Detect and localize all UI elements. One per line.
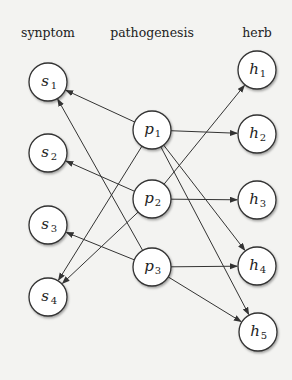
node-s1: s1 (29, 63, 67, 101)
node-subscript: 5 (261, 330, 267, 341)
node-label: p (144, 120, 154, 138)
node-subscript: 1 (155, 128, 161, 139)
edge-p2-to-h1 (164, 86, 244, 185)
node-h3: h3 (238, 181, 276, 219)
node-label: p (144, 189, 154, 207)
node-label: s (41, 143, 49, 161)
node-label: h (249, 60, 259, 78)
node-h2: h2 (238, 115, 276, 153)
node-label: h (249, 124, 259, 142)
node-h4: h4 (238, 247, 276, 285)
edge-p1-to-h4 (164, 145, 245, 250)
graph-diagram: s1s2s3s4p1p2p3h1h2h3h4h5 (0, 0, 292, 380)
node-label: h (249, 190, 259, 208)
nodes-layer: s1s2s3s4p1p2p3h1h2h3h4h5 (29, 51, 277, 351)
node-subscript: 3 (260, 198, 266, 209)
node-subscript: 2 (155, 197, 161, 208)
node-subscript: 3 (155, 265, 161, 276)
node-s4: s4 (29, 278, 67, 316)
edge-p3-to-h5 (168, 277, 241, 322)
node-p3: p3 (133, 248, 171, 286)
node-label: s (41, 287, 49, 305)
node-s3: s3 (29, 206, 67, 244)
node-p2: p2 (133, 180, 171, 218)
edge-p1-to-h2 (171, 131, 237, 134)
node-s2: s2 (29, 134, 67, 172)
edge-p2-to-h3 (171, 199, 237, 200)
edge-p1-to-s4 (59, 146, 142, 280)
node-h1: h1 (238, 51, 276, 89)
node-subscript: 1 (51, 80, 57, 91)
node-label: h (249, 256, 259, 274)
edge-p3-to-s1 (58, 99, 143, 250)
edge-p3-to-h4 (171, 266, 237, 267)
node-subscript: 2 (260, 132, 266, 143)
node-label: s (41, 215, 49, 233)
node-label: h (250, 322, 260, 340)
edge-p3-to-s3 (67, 232, 135, 259)
node-subscript: 3 (51, 223, 57, 234)
node-p1: p1 (133, 111, 171, 149)
node-h5: h5 (239, 313, 277, 351)
node-subscript: 2 (51, 151, 57, 162)
edge-p1-to-s1 (66, 90, 135, 122)
node-label: s (41, 72, 49, 90)
node-subscript: 4 (51, 295, 57, 306)
node-label: p (144, 257, 154, 275)
node-subscript: 4 (260, 264, 266, 275)
node-subscript: 1 (260, 68, 266, 79)
